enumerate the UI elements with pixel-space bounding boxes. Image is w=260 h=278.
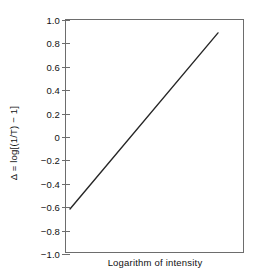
y-tick-label: 0.2 xyxy=(46,108,60,119)
y-tick-label: −1.0 xyxy=(41,249,60,260)
y-axis-title: Δ = log[(1/T) − 1] xyxy=(0,0,26,278)
y-tick-label: 0.6 xyxy=(46,61,60,72)
y-axis-title-text: Δ = log[(1/T) − 1] xyxy=(8,106,19,180)
y-tick-label: 0.8 xyxy=(46,38,60,49)
y-tick-label: −0.6 xyxy=(41,202,60,213)
x-axis-title-text: Logarithm of intensity xyxy=(108,257,203,268)
y-tick-label: 0 xyxy=(55,132,60,143)
series-group xyxy=(70,33,218,209)
plot-area: 1.00.80.60.40.20−0.2−0.4−0.6−0.8−1.0 xyxy=(65,19,244,253)
data-line-svg xyxy=(66,20,245,254)
y-tick-label: 1.0 xyxy=(46,15,60,26)
chart-figure: Δ = log[(1/T) − 1] 1.00.80.60.40.20−0.2−… xyxy=(0,0,260,278)
data-series-0 xyxy=(70,33,218,209)
y-tick-label: −0.4 xyxy=(41,178,60,189)
y-tick-label: 0.4 xyxy=(46,85,60,96)
x-axis-title: Logarithm of intensity xyxy=(65,257,245,268)
y-tick-label: −0.2 xyxy=(41,155,60,166)
y-tick-label: −0.8 xyxy=(41,225,60,236)
y-tick-mark xyxy=(62,254,70,255)
